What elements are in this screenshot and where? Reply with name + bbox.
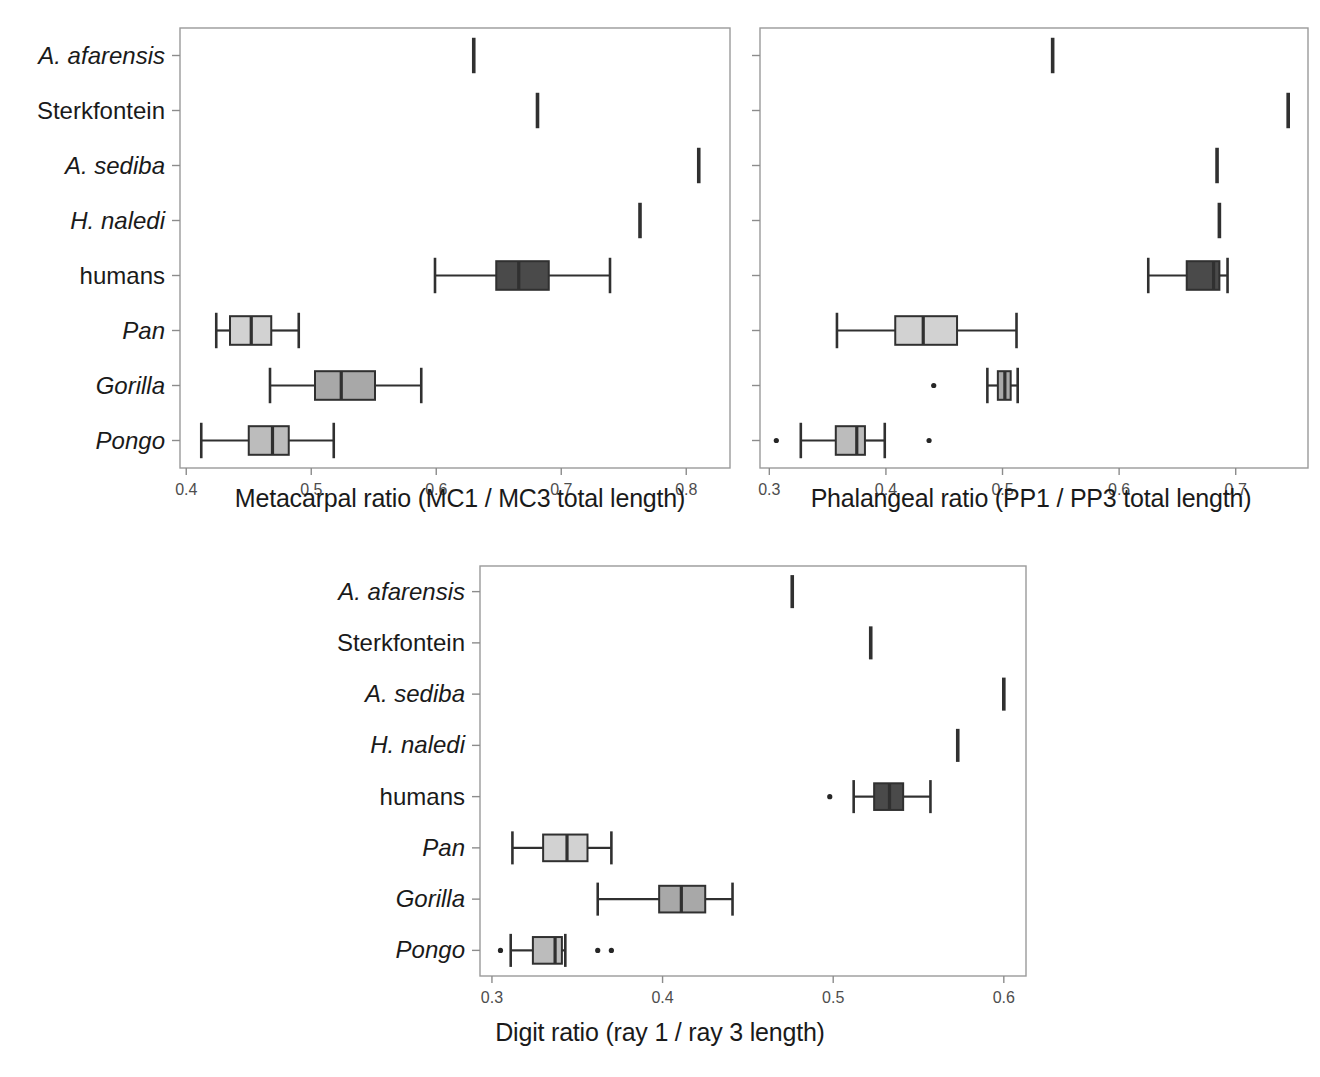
category-label: H. naledi [370,731,465,758]
phalangeal-axis-title: Phalangeal ratio (PP1 / PP3 total length… [742,484,1320,513]
x-tick-label: 0.5 [822,989,844,1006]
category-label: Gorilla [396,885,465,912]
category-label: Pongo [396,936,465,963]
category-label: humans [380,783,465,810]
digit-axis-title: Digit ratio (ray 1 / ray 3 length) [280,1018,1040,1047]
metacarpal-plot-area: 0.40.50.60.70.8A. afarensisSterkfonteinA… [0,14,740,514]
metacarpal-axis-title: Metacarpal ratio (MC1 / MC3 total length… [180,484,740,513]
category-label: Gorilla [96,372,165,399]
x-tick-label: 0.3 [481,989,503,1006]
category-label: Pan [122,317,165,344]
category-label: Sterkfontein [37,97,165,124]
category-label: A. afarensis [36,42,165,69]
category-label: Pongo [96,427,165,454]
category-label: Sterkfontein [337,629,465,656]
category-label: A. afarensis [336,578,465,605]
category-label: humans [80,262,165,289]
category-label: A. sediba [63,152,165,179]
phalangeal-plot-area: 0.30.40.50.60.7 [742,14,1320,514]
panel-digit-ratio: 0.30.40.50.6A. afarensisSterkfonteinA. s… [280,552,1040,1022]
category-label: A. sediba [363,680,465,707]
digit-plot-area: 0.30.40.50.6A. afarensisSterkfonteinA. s… [280,552,1040,1022]
category-label: H. naledi [70,207,165,234]
category-label: Pan [422,834,465,861]
x-tick-label: 0.6 [993,989,1015,1006]
boxplot-figure: 0.40.50.60.70.8A. afarensisSterkfonteinA… [0,0,1320,1077]
panel-phalangeal-ratio: 0.30.40.50.60.7 [742,14,1320,514]
x-tick-label: 0.4 [651,989,673,1006]
panel-metacarpal-ratio: 0.40.50.60.70.8A. afarensisSterkfonteinA… [0,14,740,514]
